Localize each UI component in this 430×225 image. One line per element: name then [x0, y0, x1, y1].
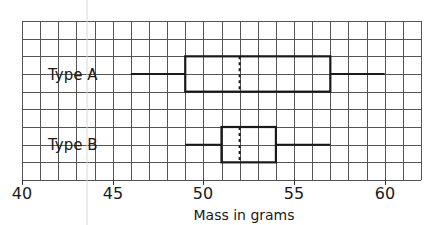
category-label-type-a: Type A [47, 66, 98, 84]
box-plot-type-b [185, 127, 330, 162]
x-axis-label: Mass in grams [193, 207, 294, 223]
tick-labels: 40 45 50 55 60 [12, 184, 395, 203]
tick-label-55: 55 [284, 184, 304, 203]
tick-label-40: 40 [12, 184, 32, 203]
tick-label-50: 50 [193, 184, 213, 203]
category-label-type-b: Type B [47, 136, 98, 154]
iqr-box [222, 127, 276, 162]
box-plot-chart: 40 45 50 55 60 Mass in grams Type A Type… [0, 0, 430, 225]
tick-label-60: 60 [375, 184, 395, 203]
tick-label-45: 45 [103, 184, 123, 203]
